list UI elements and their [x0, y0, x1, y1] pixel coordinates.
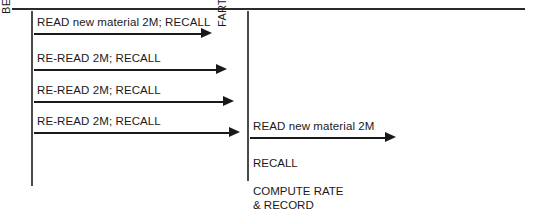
beginning-reading-point-line: [31, 11, 33, 186]
compute-rate-step-label: COMPUTE RATE: [253, 185, 344, 197]
beginning-reading-point-label: BEGINNING READING POINT: [0, 0, 13, 14]
arrow-shaft: [34, 69, 216, 71]
pass-caption: READ new material 2M; RECALL: [37, 16, 210, 28]
arrow-shaft: [34, 33, 201, 35]
arrow-shaft: [34, 132, 229, 134]
recall-step-label: RECALL: [253, 157, 298, 169]
arrow-head-icon: [229, 127, 240, 137]
arrow-head-icon: [216, 64, 227, 74]
arrow-head-icon: [385, 132, 396, 142]
farthest-reading-point-line: [247, 11, 249, 181]
arrow-head-icon: [223, 96, 234, 106]
pass-caption: RE-READ 2M; RECALL: [37, 84, 161, 96]
pass-caption: RE-READ 2M; RECALL: [37, 52, 161, 64]
top-divider-rule: [12, 8, 525, 10]
pass-caption: READ new material 2M: [253, 120, 375, 132]
arrow-shaft: [34, 101, 223, 103]
arrow-head-icon: [201, 28, 212, 38]
arrow-shaft: [250, 137, 385, 139]
reading-rate-diagram: BEGINNING READING POINT FARTHEST READING…: [0, 0, 536, 219]
pass-caption: RE-READ 2M; RECALL: [37, 115, 161, 127]
farthest-reading-point-label: FARTHEST READING POINT: [215, 0, 229, 27]
record-step-label: & RECORD: [253, 199, 314, 211]
